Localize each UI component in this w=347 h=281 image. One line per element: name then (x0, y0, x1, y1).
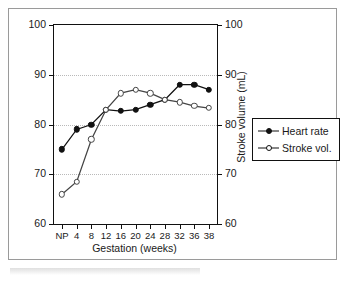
data-series-layer (54, 25, 217, 224)
x-tick-20 (136, 224, 137, 229)
y-tick-right-90 (217, 75, 222, 76)
y-tick-right-80 (217, 125, 222, 126)
x-tick-label-36: 36 (189, 231, 200, 241)
y-tick-label-right-100: 100 (225, 19, 243, 30)
chart-legend: Heart rate Stroke vol. (252, 118, 340, 161)
x-tick-label-32: 32 (174, 231, 185, 241)
series-line-heart-rate (62, 85, 209, 150)
y-tick-label-left-80: 80 (34, 119, 46, 130)
y-axis-title-right: Stroke volume (mL) (235, 71, 247, 163)
y-tick-label-left-60: 60 (34, 218, 46, 229)
y-tick-label-left-70: 70 (34, 168, 46, 179)
y-tick-label-left-100: 100 (28, 19, 46, 30)
x-tick-label-8: 8 (89, 231, 94, 241)
x-tick-label-20: 20 (130, 231, 141, 241)
x-tick-4 (77, 224, 78, 229)
y-tick-right-100 (217, 25, 222, 26)
series-lines (54, 25, 217, 224)
legend-label-heart-rate: Heart rate (282, 126, 329, 137)
x-tick-label-38: 38 (204, 231, 215, 241)
x-tick-24 (150, 224, 151, 229)
legend-item-stroke-volume: Stroke vol. (258, 141, 332, 155)
series-line-stroke-volume (62, 90, 209, 194)
y-tick-label-left-90: 90 (34, 69, 46, 80)
x-tick-label-NP: NP (55, 231, 68, 241)
x-tick-label-4: 4 (74, 231, 79, 241)
figure-panel: Heart rate (beats/min) Stroke volume (mL… (8, 8, 337, 260)
y-tick-right-60 (217, 224, 222, 225)
x-tick-12 (106, 224, 107, 229)
legend-label-stroke-volume: Stroke vol. (282, 143, 332, 154)
x-tick-32 (180, 224, 181, 229)
open-circle-marker-icon (258, 143, 279, 153)
plot-area: 10090807060 10090807060 NP48121620242832… (53, 24, 218, 225)
x-tick-NP (62, 224, 63, 229)
y-tick-left-60 (49, 224, 54, 225)
y-tick-right-70 (217, 174, 222, 175)
x-tick-8 (91, 224, 92, 229)
y-tick-label-right-80: 80 (225, 119, 237, 130)
caption-fragment (10, 268, 200, 275)
x-tick-16 (121, 224, 122, 229)
x-tick-38 (209, 224, 210, 229)
y-tick-label-right-70: 70 (225, 168, 237, 179)
x-tick-label-16: 16 (116, 231, 127, 241)
x-tick-label-12: 12 (101, 231, 112, 241)
x-tick-label-28: 28 (160, 231, 171, 241)
y-tick-label-right-90: 90 (225, 69, 237, 80)
y-tick-label-right-60: 60 (225, 218, 237, 229)
x-tick-label-24: 24 (145, 231, 156, 241)
x-tick-36 (194, 224, 195, 229)
legend-item-heart-rate: Heart rate (258, 124, 332, 138)
x-tick-28 (165, 224, 166, 229)
filled-circle-marker-icon (258, 126, 279, 136)
x-axis-title: Gestation (weeks) (53, 242, 216, 254)
